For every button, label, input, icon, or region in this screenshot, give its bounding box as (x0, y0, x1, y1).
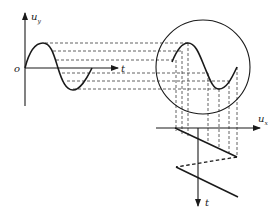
t-axis-left-label: t (121, 63, 126, 74)
oscilloscope-diagram: uy o t ux t (0, 0, 279, 220)
sawtooth-ramp-1 (175, 128, 237, 157)
horizontal-projection-lines (45, 43, 229, 89)
sawtooth-retrace (176, 157, 237, 167)
input-sine-wave (25, 43, 92, 90)
screen-circle (156, 20, 250, 114)
sweep-plot: ux t (156, 113, 268, 208)
oscilloscope-screen (156, 20, 250, 114)
uy-axis-label: uy (31, 11, 41, 25)
sawtooth-ramp-2 (176, 167, 238, 197)
t-axis-sweep-label: t (205, 197, 210, 208)
ux-axis-label: ux (258, 113, 268, 126)
left-plot: uy o t (14, 11, 126, 106)
vertical-projection-lines (176, 43, 237, 157)
origin-label: o (14, 63, 20, 74)
